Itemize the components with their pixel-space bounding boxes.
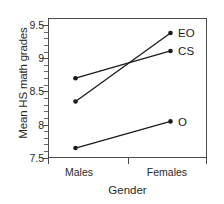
- y-tick-minor: [44, 71, 48, 72]
- y-tick-major: [42, 25, 48, 26]
- y-tick-minor: [44, 105, 48, 106]
- series-label-eo: EO: [178, 27, 195, 39]
- y-tick-minor: [44, 118, 48, 119]
- y-tick-minor: [44, 151, 48, 152]
- y-tick-minor: [44, 131, 48, 132]
- series-label-cs: CS: [178, 45, 194, 57]
- y-tick-minor: [44, 138, 48, 139]
- y-tick-label: 7.5: [14, 152, 44, 164]
- y-tick-major: [42, 125, 48, 126]
- y-tick-label: 9.5: [14, 19, 44, 31]
- x-tick-left-edge: [48, 158, 49, 164]
- line-chart-figure: Mean HS math grades 9.5 9 8.5 8 7.5 Male…: [0, 0, 224, 204]
- plot-area-frame: [48, 18, 207, 158]
- y-tick-minor: [44, 52, 48, 53]
- y-tick-label: 8.5: [14, 85, 44, 97]
- series-label-o: O: [178, 116, 187, 128]
- y-tick-minor: [44, 65, 48, 66]
- x-tick-label-females: Females: [132, 166, 202, 178]
- x-axis-title: Gender: [48, 184, 207, 196]
- x-tick-label-males: Males: [44, 166, 114, 178]
- y-tick-minor: [44, 111, 48, 112]
- y-tick-minor: [44, 38, 48, 39]
- y-tick-minor: [44, 45, 48, 46]
- y-tick-minor: [44, 78, 48, 79]
- y-tick-minor: [44, 144, 48, 145]
- y-tick-label: 9: [14, 52, 44, 64]
- y-axis-tick-labels: 9.5 9 8.5 8 7.5: [12, 0, 44, 204]
- y-tick-major: [42, 58, 48, 59]
- y-tick-major: [42, 91, 48, 92]
- y-tick-label: 8: [14, 119, 44, 131]
- y-tick-minor: [44, 32, 48, 33]
- x-tick-middle: [128, 158, 129, 164]
- y-tick-minor: [44, 98, 48, 99]
- y-tick-minor: [44, 85, 48, 86]
- x-tick-right-edge: [206, 158, 207, 164]
